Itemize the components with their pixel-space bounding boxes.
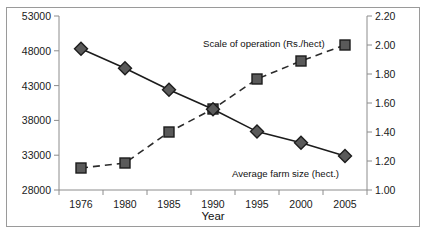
left-axis-tick-label: 28000 [7, 184, 51, 196]
right-axis-tick-label: 2.00 [375, 39, 419, 51]
x-axis-tick-label: 1976 [59, 198, 103, 210]
series-label-scale-of-operation: Scale of operation (Rs./hect) [203, 38, 325, 49]
x-axis-tick-label: 1990 [191, 198, 235, 210]
right-axis-tick-label: 1.00 [375, 184, 419, 196]
chart-frame: 53000 48000 43000 38000 33000 28000 2.20… [6, 7, 420, 227]
top-scan-artifact [0, 0, 428, 7]
right-axis-tick-label: 1.80 [375, 68, 419, 80]
series-average-farm-size-markers [75, 42, 352, 162]
x-axis-tick-label: 1985 [147, 198, 191, 210]
right-axis-tick-label: 1.20 [375, 155, 419, 167]
right-axis-ticks [367, 16, 372, 190]
chart-figure: 53000 48000 43000 38000 33000 28000 2.20… [0, 0, 428, 234]
left-axis-tick-label: 48000 [7, 45, 51, 57]
x-axis-tick-label: 2000 [279, 198, 323, 210]
left-axis-tick-label: 38000 [7, 114, 51, 126]
right-axis-tick-label: 1.40 [375, 126, 419, 138]
left-axis-ticks [54, 16, 59, 190]
left-axis-tick-label: 53000 [7, 10, 51, 22]
left-axis-tick-label: 43000 [7, 80, 51, 92]
x-axis-title: Year [163, 210, 263, 222]
left-axis-tick-label: 33000 [7, 149, 51, 161]
x-axis-tick-label: 1995 [235, 198, 279, 210]
right-axis-tick-label: 1.60 [375, 97, 419, 109]
x-axis-tick-label: 2005 [323, 198, 367, 210]
x-axis-tick-label: 1980 [103, 198, 147, 210]
series-label-average-farm-size: Average farm size (hect.) [232, 168, 339, 179]
x-axis-ticks [59, 190, 367, 195]
right-axis-tick-label: 2.20 [375, 10, 419, 22]
